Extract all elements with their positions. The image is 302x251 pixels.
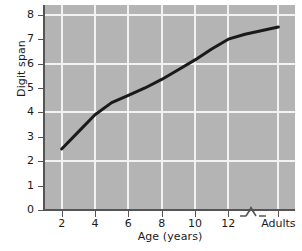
x-tick-label: 10 — [188, 218, 202, 229]
x-tick-label: 4 — [92, 218, 99, 229]
y-tick-mark — [38, 39, 44, 40]
x-axis-title: Age (years) — [45, 230, 295, 243]
y-tick-label: 1 — [6, 180, 34, 191]
y-tick-label: 0 — [6, 204, 34, 215]
x-tick-label: 2 — [58, 218, 65, 229]
digit-span-line-series — [45, 5, 295, 210]
x-tick-label: 12 — [221, 218, 235, 229]
y-tick-mark — [38, 186, 44, 187]
y-axis-title: Digit span — [15, 14, 28, 124]
y-tick-mark — [38, 88, 44, 89]
y-tick-label: 3 — [6, 131, 34, 142]
y-tick-label: 2 — [6, 155, 34, 166]
x-tick-label: Adults — [261, 218, 295, 229]
x-tick-label: 8 — [158, 218, 165, 229]
y-tick-mark — [38, 161, 44, 162]
x-tick-label: 6 — [125, 218, 132, 229]
y-axis-line — [43, 5, 45, 211]
y-tick-mark — [38, 15, 44, 16]
chart-figure: 012345678 24681012Adults Digit span Age … — [0, 0, 302, 251]
y-tick-mark — [38, 137, 44, 138]
y-tick-mark — [38, 210, 44, 211]
y-tick-mark — [38, 112, 44, 113]
y-tick-mark — [38, 64, 44, 65]
plot-area — [45, 5, 295, 210]
